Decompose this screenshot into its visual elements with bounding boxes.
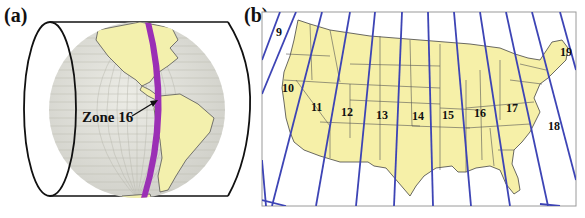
- zone-label-10: 10: [282, 81, 294, 95]
- figure-canvas: Zone 16: [0, 0, 585, 218]
- zone-label-17: 17: [506, 101, 518, 115]
- panel-b-us-utm-map: 9 10 11 12 13 14 15 16 17 18 19: [262, 12, 576, 206]
- cylinder-right-arc: [228, 22, 250, 196]
- zone-label-12: 12: [341, 105, 353, 119]
- panel-a-globe-diagram: Zone 16: [24, 22, 250, 200]
- zone-label-14: 14: [412, 109, 424, 123]
- zone-label-13: 13: [376, 108, 388, 122]
- zone-label-18: 18: [548, 119, 560, 133]
- zone-label-11: 11: [311, 100, 322, 114]
- zone-16-callout: Zone 16: [82, 109, 134, 125]
- zone-label-16: 16: [474, 106, 486, 120]
- zone-label-19: 19: [560, 45, 572, 59]
- zone-label-9: 9: [276, 25, 282, 39]
- zone-label-15: 15: [442, 108, 454, 122]
